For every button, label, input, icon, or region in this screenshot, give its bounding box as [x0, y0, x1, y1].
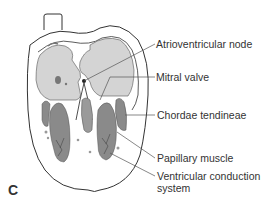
dark-spot: [55, 76, 61, 84]
label-ventricular-conduction: Ventricular conduction: [157, 170, 260, 182]
label-av-node: Atrioventricular node: [156, 38, 252, 50]
spot: [89, 151, 92, 154]
label-papillary-muscle: Papillary muscle: [157, 152, 233, 164]
spot: [117, 147, 120, 150]
spot: [77, 139, 80, 142]
spot: [47, 137, 49, 139]
dark-spot-small: [65, 83, 67, 85]
panel-letter: C: [8, 182, 18, 198]
label-chordae-tendineae: Chordae tendineae: [157, 109, 246, 121]
aorta-stub: [44, 14, 62, 30]
papillary-muscle-left: [97, 103, 116, 160]
label-ventricular-conduction-system: system: [157, 182, 190, 194]
label-mitral-valve: Mitral valve: [156, 71, 209, 83]
spot: [45, 131, 48, 134]
